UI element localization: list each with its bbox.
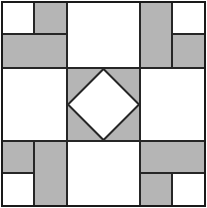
white-square — [2, 173, 34, 206]
white-square — [140, 68, 205, 141]
white-square — [172, 173, 205, 206]
gray-horizontal-rect — [2, 34, 67, 68]
quilt-block-canvas — [0, 0, 207, 208]
white-square — [2, 68, 67, 141]
center-unit — [67, 68, 140, 141]
top-center-unit — [67, 2, 140, 68]
white-square — [67, 141, 140, 206]
middle-left-unit — [2, 68, 67, 141]
white-square — [67, 2, 140, 68]
gray-square — [2, 141, 34, 173]
white-square — [2, 2, 34, 34]
patch-layer — [2, 2, 205, 206]
white-square — [172, 2, 205, 34]
bottom-center-unit — [67, 141, 140, 206]
middle-right-unit — [140, 68, 205, 141]
gray-vertical-rect — [140, 2, 172, 68]
gray-vertical-rect — [34, 141, 67, 206]
gray-horizontal-rect — [140, 141, 205, 173]
gray-square — [140, 173, 172, 206]
gray-horizontal-rect — [172, 34, 205, 68]
gray-vertical-rect — [34, 2, 67, 34]
quilt-block-figure — [0, 0, 207, 208]
